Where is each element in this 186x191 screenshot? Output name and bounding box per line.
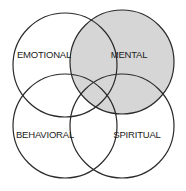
behavioral-label: BEHAVIORAL: [16, 129, 74, 140]
emotional-label: EMOTIONAL: [17, 49, 71, 60]
venn-diagram: EMOTIONAL MENTAL BEHAVIORAL SPIRITUAL: [0, 0, 186, 191]
mental-label: MENTAL: [111, 49, 148, 60]
behavioral-circle: [13, 74, 117, 178]
spiritual-label: SPIRITUAL: [113, 129, 160, 140]
